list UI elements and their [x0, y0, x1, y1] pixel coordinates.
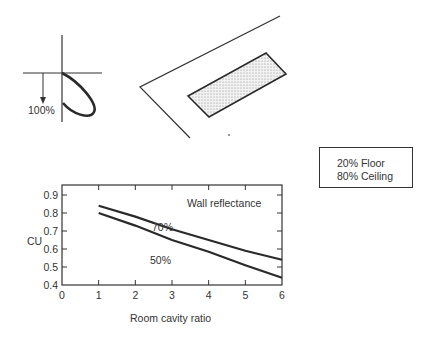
svg-text:70%: 70% — [152, 221, 173, 233]
intensity-curve — [62, 73, 95, 116]
svg-text:0.8: 0.8 — [43, 207, 58, 219]
chart-series: 70%50% — [99, 206, 282, 278]
reflectance-box: 20% Floor 80% Ceiling — [319, 147, 413, 188]
ceiling-reflectance: 80% Ceiling — [337, 170, 393, 182]
room-perspective-drawing — [140, 16, 286, 138]
y-axis-label: CU — [27, 235, 42, 247]
svg-text:6: 6 — [279, 289, 285, 301]
svg-text:0.6: 0.6 — [43, 243, 58, 255]
speck — [228, 134, 230, 136]
svg-text:3: 3 — [169, 289, 175, 301]
legend-title: Wall reflectance — [187, 197, 261, 209]
svg-text:2: 2 — [132, 289, 138, 301]
svg-text:5: 5 — [242, 289, 248, 301]
svg-text:0.4: 0.4 — [43, 279, 58, 291]
svg-text:0.7: 0.7 — [43, 225, 58, 237]
polar-intensity-diagram — [23, 35, 102, 122]
x-axis-label: Room cavity ratio — [130, 312, 211, 324]
svg-text:0: 0 — [59, 289, 65, 301]
svg-text:4: 4 — [206, 289, 212, 301]
svg-text:1: 1 — [96, 289, 102, 301]
svg-text:0.5: 0.5 — [43, 261, 58, 273]
svg-text:0.9: 0.9 — [43, 189, 58, 201]
svg-text:50%: 50% — [150, 254, 171, 266]
floor-reflectance: 20% Floor — [337, 157, 385, 169]
cu-chart: 0.40.50.60.70.80.9 0123456 70%50% CU Roo… — [27, 185, 285, 324]
luminaire-shape — [188, 53, 286, 117]
arrow-head-icon — [40, 97, 46, 104]
